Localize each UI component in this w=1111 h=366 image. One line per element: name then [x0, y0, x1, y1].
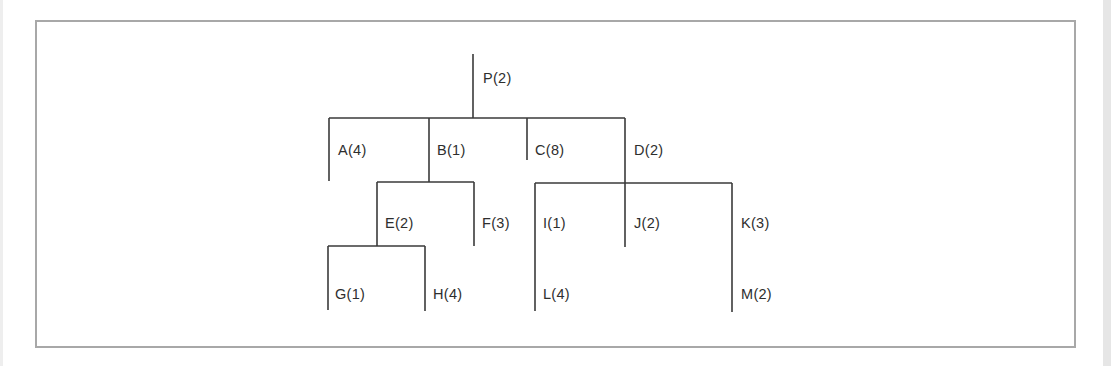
node-i: I(1) — [543, 216, 566, 231]
node-p: P(2) — [483, 71, 512, 86]
node-l: L(4) — [543, 287, 570, 302]
node-a: A(4) — [338, 143, 367, 158]
node-h: H(4) — [433, 287, 462, 302]
node-k: K(3) — [741, 216, 770, 231]
node-c: C(8) — [535, 143, 564, 158]
node-b: B(1) — [437, 143, 466, 158]
node-g: G(1) — [335, 287, 365, 302]
tree-connectors — [0, 0, 1111, 366]
node-m: M(2) — [741, 287, 772, 302]
node-f: F(3) — [482, 216, 510, 231]
node-d: D(2) — [634, 143, 663, 158]
node-j: J(2) — [634, 216, 660, 231]
node-e: E(2) — [385, 216, 414, 231]
